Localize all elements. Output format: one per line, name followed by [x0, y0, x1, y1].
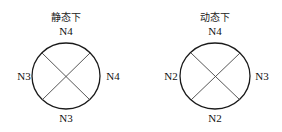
static-label-right: N4: [106, 70, 120, 82]
static-label-left: N3: [17, 70, 31, 82]
dynamic-label-right: N3: [255, 70, 269, 82]
dynamic-label-left: N2: [164, 70, 177, 82]
static-label-top: N4: [59, 25, 73, 37]
static-label-bottom: N3: [59, 112, 73, 124]
dynamic-label-top: N4: [208, 25, 222, 37]
dynamic-title: 动态下: [200, 11, 230, 23]
diagram-canvas: 静态下 N4 N3 N4 N3 动态下 N4 N2 N3 N2: [0, 0, 282, 132]
dynamic-label-bottom: N2: [208, 112, 221, 124]
dynamic-diagram: 动态下 N4 N2 N3 N2: [164, 11, 269, 124]
static-diagram: 静态下 N4 N3 N4 N3: [17, 11, 120, 124]
static-title: 静态下: [51, 11, 81, 23]
